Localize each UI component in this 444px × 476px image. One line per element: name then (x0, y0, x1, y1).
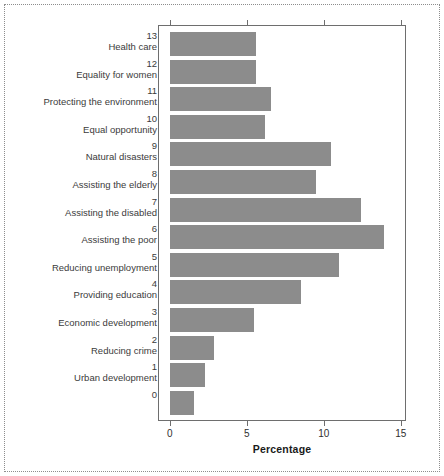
x-axis-title: Percentage (158, 443, 406, 455)
y-axis-label: 3Economic development (0, 306, 157, 328)
y-axis-label: 0 (0, 389, 157, 400)
bar (170, 60, 256, 84)
x-tick-label: 5 (244, 428, 250, 439)
y-axis-label-category: Equality for women (0, 69, 157, 80)
bar (170, 32, 256, 56)
y-axis-label-index: 7 (0, 196, 157, 207)
y-axis-label-column: 13Health care12Equality for women11Prote… (0, 25, 157, 418)
y-axis-label-index: 13 (0, 30, 157, 41)
bar (170, 253, 339, 277)
x-tick-bottom (170, 421, 171, 426)
x-tick-bottom (324, 421, 325, 426)
y-axis-label: 6Assisting the poor (0, 223, 157, 245)
y-axis-label-category: Health care (0, 41, 157, 52)
bar (170, 363, 205, 387)
y-axis-label-category: Assisting the poor (0, 234, 157, 245)
y-axis-label-index: 3 (0, 306, 157, 317)
y-axis-label: 1Urban development (0, 361, 157, 383)
bar (170, 115, 265, 139)
bars-container (159, 26, 405, 420)
bar (170, 280, 301, 304)
y-axis-label: 8Assisting the elderly (0, 168, 157, 190)
y-axis-label-index: 1 (0, 361, 157, 372)
x-tick-bottom (247, 421, 248, 426)
y-axis-label: 11Protecting the environment (0, 85, 157, 107)
y-axis-label-category: Assisting the disabled (0, 207, 157, 218)
bar (170, 170, 316, 194)
x-tick-top (170, 20, 171, 25)
plot-area (158, 25, 406, 421)
bar (170, 225, 384, 249)
y-axis-label-index: 8 (0, 168, 157, 179)
x-tick-top (247, 20, 248, 25)
x-tick-top (324, 20, 325, 25)
y-axis-label-index: 11 (0, 85, 157, 96)
y-axis-label: 2Reducing crime (0, 334, 157, 356)
y-axis-label-category: Reducing unemployment (0, 262, 157, 273)
chart-page: 13Health care12Equality for women11Prote… (0, 0, 444, 476)
bar (170, 308, 255, 332)
bar (170, 142, 332, 166)
bar (170, 336, 215, 360)
y-axis-label: 4Providing education (0, 278, 157, 300)
y-axis-label-category: Reducing crime (0, 345, 157, 356)
y-axis-label-index: 6 (0, 223, 157, 234)
y-axis-label-index: 2 (0, 334, 157, 345)
y-axis-label-category: Protecting the environment (0, 96, 157, 107)
y-axis-label-index: 9 (0, 140, 157, 151)
y-axis-label-category: Natural disasters (0, 151, 157, 162)
x-tick-label: 0 (167, 428, 173, 439)
bar (170, 198, 361, 222)
y-axis-label: 10Equal opportunity (0, 113, 157, 135)
y-axis-label: 12Equality for women (0, 58, 157, 80)
y-axis-label-category: Economic development (0, 317, 157, 328)
y-axis-label-category: Providing education (0, 289, 157, 300)
y-axis-label-index: 5 (0, 251, 157, 262)
y-axis-label: 9Natural disasters (0, 140, 157, 162)
y-axis-label-index: 0 (0, 389, 157, 400)
x-tick-top (401, 20, 402, 25)
y-axis-label-category: Urban development (0, 372, 157, 383)
bar (170, 391, 195, 415)
y-axis-label-index: 4 (0, 278, 157, 289)
y-axis-label-index: 12 (0, 58, 157, 69)
y-axis-label: 7Assisting the disabled (0, 196, 157, 218)
y-axis-label-index: 10 (0, 113, 157, 124)
y-axis-label-category: Assisting the elderly (0, 179, 157, 190)
bar (170, 87, 272, 111)
x-tick-bottom (401, 421, 402, 426)
y-axis-label: 5Reducing unemployment (0, 251, 157, 273)
y-axis-label-category: Equal opportunity (0, 124, 157, 135)
x-tick-label: 15 (395, 428, 406, 439)
x-tick-label: 10 (318, 428, 329, 439)
y-axis-label: 13Health care (0, 30, 157, 52)
